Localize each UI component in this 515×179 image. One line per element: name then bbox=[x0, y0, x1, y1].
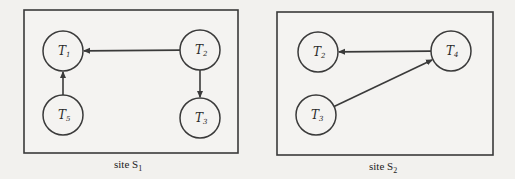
site-s1-panel: T1T2T5T3 site S1 bbox=[24, 10, 238, 173]
transaction-node-t2: T2 bbox=[180, 30, 220, 70]
site-s2-caption-text: site S bbox=[369, 160, 393, 172]
transaction-node-t5: T5 bbox=[43, 95, 83, 135]
edge-t2-to-t1-arrow bbox=[84, 50, 180, 51]
edge-t4-to-t2-arrow bbox=[339, 51, 431, 52]
transaction-node-t4: T4 bbox=[431, 31, 471, 71]
site-s2-caption: site S2 bbox=[369, 160, 397, 175]
transaction-node-t3: T3 bbox=[296, 95, 336, 135]
site-s1-caption: site S1 bbox=[114, 158, 142, 173]
transaction-node-t1: T1 bbox=[43, 31, 83, 71]
transaction-node-t3: T3 bbox=[180, 98, 220, 138]
transaction-node-t2: T2 bbox=[298, 32, 338, 72]
site-s2-caption-subscript: 2 bbox=[393, 166, 397, 175]
site-s1-caption-subscript: 1 bbox=[138, 164, 142, 173]
site-s1-caption-text: site S bbox=[114, 158, 138, 170]
wait-for-graph-diagram: T1T2T5T3 site S1 T2T4T3 site S2 bbox=[0, 0, 515, 179]
site-s2-panel: T2T4T3 site S2 bbox=[277, 12, 493, 175]
